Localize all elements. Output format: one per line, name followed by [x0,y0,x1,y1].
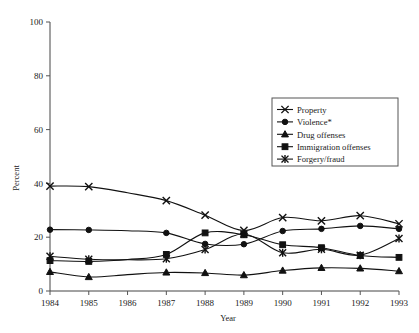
marker-1-1 [86,227,92,233]
marker-1-8 [357,223,363,229]
marker-1-9 [396,226,402,232]
x-tick-label: 1984 [41,298,60,308]
legend-item-label: Drug offenses [297,130,346,140]
y-tick-label: 100 [30,17,44,27]
circle-marker-icon [241,241,247,247]
circle-marker-icon [319,226,325,232]
circle-marker-icon [86,227,92,233]
y-tick-label: 0 [39,286,44,296]
legend-item-label: Forgery/fraud [297,154,345,164]
y-tick-label: 80 [34,71,44,81]
x-tick-label: 1992 [351,298,369,308]
square-marker-icon [202,230,208,236]
legend-item-label: Property [297,105,327,115]
x-tick-label: 1987 [157,298,176,308]
circle-marker-icon [47,227,53,233]
circle-marker-icon [396,226,402,232]
circle-marker-icon [164,230,170,236]
legend[interactable]: PropertyViolence*Drug offensesImmigratio… [272,98,398,166]
marker-1-0 [47,227,53,233]
legend-item-label: Violence* [297,117,332,127]
y-axis-title: Percent [11,165,21,191]
x-tick-label: 1990 [274,298,293,308]
marker-1-7 [319,226,325,232]
marker-3-9 [396,254,402,260]
x-tick-label: 1991 [312,298,330,308]
marker-legend-3 [282,144,288,150]
line-chart: 020406080100 198419851986198719881989199… [0,0,419,333]
x-tick-label: 1988 [196,298,215,308]
chart-canvas: 020406080100 198419851986198719881989199… [0,0,419,333]
marker-3-6 [280,242,286,248]
marker-3-4 [202,230,208,236]
square-marker-icon [280,242,286,248]
circle-marker-icon [280,228,286,234]
x-tick-label: 1986 [119,298,138,308]
x-axis-title: Year [220,313,236,323]
marker-legend-1 [282,119,288,125]
x-tick-label: 1993 [390,298,409,308]
square-marker-icon [282,144,288,150]
square-marker-icon [396,254,402,260]
circle-marker-icon [357,223,363,229]
x-tick-label: 1989 [235,298,254,308]
legend-item-label: Immigration offenses [297,142,371,152]
marker-1-5 [241,241,247,247]
circle-marker-icon [282,119,288,125]
y-tick-label: 20 [34,232,44,242]
y-tick-label: 40 [34,179,44,189]
marker-1-6 [280,228,286,234]
y-tick-label: 60 [34,125,44,135]
marker-1-3 [164,230,170,236]
x-tick-label: 1985 [80,298,99,308]
